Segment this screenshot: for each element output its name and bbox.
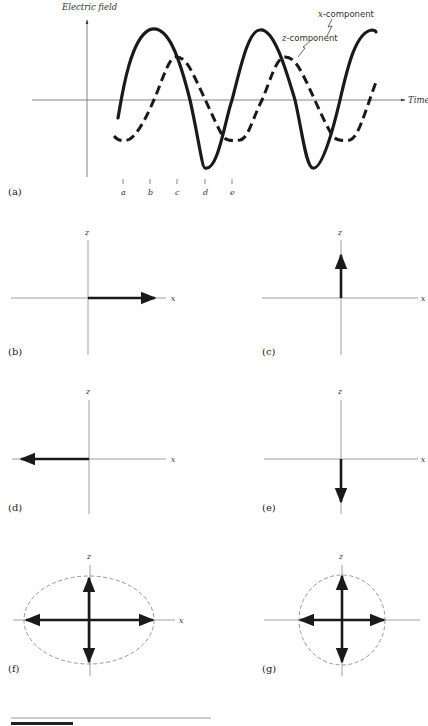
electric-field-label: Electric field [61,2,118,12]
panel-d: z x (d) [8,387,176,514]
z-component-leader [298,43,308,57]
z-axis-label: z [338,552,343,561]
panel-c-label: (c) [262,346,276,357]
marker-d: d [203,188,208,197]
x-axis-label: x [421,294,426,303]
panel-f: z x (f) [8,552,184,676]
z-axis-label: z [337,228,342,237]
x-component-label: x-component [318,9,375,19]
footer-bar [11,722,73,725]
figure-canvas: Electric field Time x-component z-compon… [0,0,428,726]
panel-c: z x (c) [262,228,426,357]
x-axis-label: x [171,455,176,464]
z-component-label: z-component [281,33,338,43]
z-axis-label: z [86,552,91,561]
z-axis-label: z [85,387,90,396]
x-axis-label: x [421,455,426,464]
panel-e-label: (e) [262,502,276,513]
panel-b-label: (b) [8,346,22,357]
panel-d-label: (d) [8,502,22,513]
panel-e: z x (e) [262,387,426,514]
time-markers [123,179,232,184]
panel-g: z (g) [262,552,420,676]
x-axis-label: x [171,294,176,303]
panel-f-label: (f) [8,663,20,674]
panel-a-waveforms: Electric field Time x-component z-compon… [8,2,428,197]
x-component-curve [118,29,376,168]
panel-a-label: (a) [8,186,22,197]
panel-b: z x (b) [8,228,176,357]
z-component-curve [114,57,376,141]
z-axis-label: z [84,228,89,237]
time-label: Time [408,95,428,105]
marker-e: e [230,188,235,197]
panel-g-label: (g) [262,663,276,674]
marker-c: c [175,188,180,197]
marker-b: b [148,188,153,197]
z-axis-label: z [337,387,342,396]
marker-a: a [121,188,126,197]
x-axis-label: x [179,616,184,625]
